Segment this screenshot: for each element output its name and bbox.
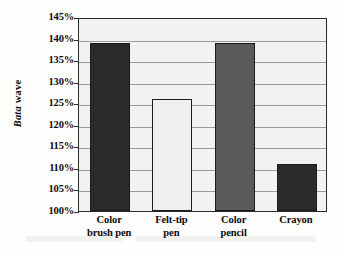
- x-axis-category-label-line: Crayon: [265, 214, 327, 227]
- y-axis-tick-label: 100%: [28, 205, 74, 216]
- x-axis-category-label-line: pen: [140, 227, 202, 240]
- y-axis-tick-mark: [74, 104, 79, 105]
- y-axis-tick-label: 115%: [28, 140, 74, 151]
- y-axis-tick-label: 145%: [28, 11, 74, 22]
- y-axis-title: Bata wave: [12, 61, 23, 147]
- x-axis-category-label-line: pencil: [203, 227, 265, 240]
- x-axis-category-label: Colorpencil: [203, 214, 265, 239]
- y-axis-tick-mark: [74, 18, 79, 19]
- y-axis-tick-label: 110%: [28, 162, 74, 173]
- y-axis-title-italic: Bata: [12, 106, 23, 127]
- y-axis-tick-mark: [74, 40, 79, 41]
- y-axis-tick-mark: [74, 147, 79, 148]
- x-axis-category-label-line: Color: [203, 214, 265, 227]
- y-axis-tick-mark: [74, 169, 79, 170]
- y-axis-tick-label: 125%: [28, 97, 74, 108]
- y-axis-tick-label: 120%: [28, 119, 74, 130]
- y-axis-tick-label: 135%: [28, 54, 74, 65]
- x-axis-category-label-line: Felt-tip: [140, 214, 202, 227]
- x-axis-category-label-line: Color: [78, 214, 140, 227]
- x-axis-category-label: Felt-tippen: [140, 214, 202, 239]
- x-axis-category-labels: Colorbrush penFelt-tippenColorpencilCray…: [78, 214, 327, 252]
- x-axis-category-label-line: brush pen: [78, 227, 140, 240]
- y-axis-tick-label: 105%: [28, 183, 74, 194]
- y-axis-tick-label: 140%: [28, 33, 74, 44]
- y-axis-tick-mark: [74, 212, 79, 213]
- x-axis-category-label: Colorbrush pen: [78, 214, 140, 239]
- x-axis-category-label: Crayon: [265, 214, 327, 227]
- y-axis-tick-mark: [74, 83, 79, 84]
- y-axis-tick-mark: [74, 190, 79, 191]
- y-axis-tick-mark: [74, 126, 79, 127]
- y-axis-tick-marks: [78, 18, 327, 212]
- y-axis-tick-mark: [74, 61, 79, 62]
- y-axis-tick-labels: 145%140%135%130%125%120%115%110%105%100%: [26, 0, 74, 253]
- y-axis-title-roman: wave: [12, 80, 23, 104]
- y-axis-tick-label: 130%: [28, 76, 74, 87]
- chart-figure: Bata wave 145%140%135%130%125%120%115%11…: [0, 0, 338, 253]
